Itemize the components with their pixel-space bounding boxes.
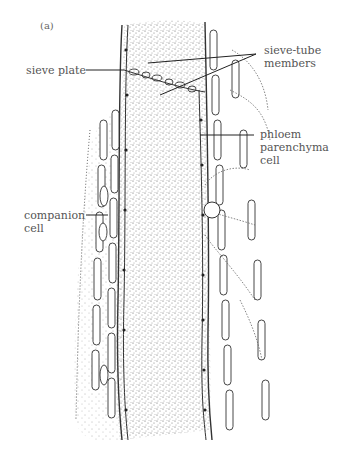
parenchyma-cells — [210, 30, 269, 430]
label-sieve-plate: sieve plate — [26, 64, 86, 77]
label-sieve-tube-members: sieve-tube members — [264, 44, 321, 70]
parenchyma-nucleus — [204, 202, 220, 218]
panel-label: (a) — [40, 20, 54, 31]
label-companion-cell: companion cell — [24, 209, 85, 235]
sieve-tube-body — [116, 20, 210, 440]
phloem-diagram: (a) sieve plate sieve-tube members phloe… — [0, 0, 338, 468]
label-phloem-parenchyma-cell: phloem parenchyma cell — [260, 128, 329, 167]
